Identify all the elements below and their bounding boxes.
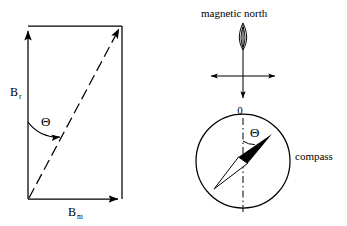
right-panel-compass-diagram: magnetic north 0 compass [196,7,333,212]
label-theta-left: Θ [41,114,50,129]
label-magnetic-north: magnetic north [201,7,268,19]
label-bm: B m [68,205,83,221]
label-bm-base: B [68,205,76,219]
figure-root: B r B m Θ magnetic north [0,0,347,226]
label-br-subscript: r [19,92,22,101]
label-br-base: B [10,85,18,99]
label-compass: compass [295,150,333,162]
label-theta-compass: Θ [250,125,259,140]
diagram-canvas: B r B m Θ magnetic north [0,0,347,226]
left-panel-vector-diagram: B r B m Θ [10,26,122,221]
label-bm-subscript: m [77,212,83,221]
compass-needle-south [214,157,248,189]
angle-arc-compass [243,141,255,145]
label-br: B r [10,85,22,101]
